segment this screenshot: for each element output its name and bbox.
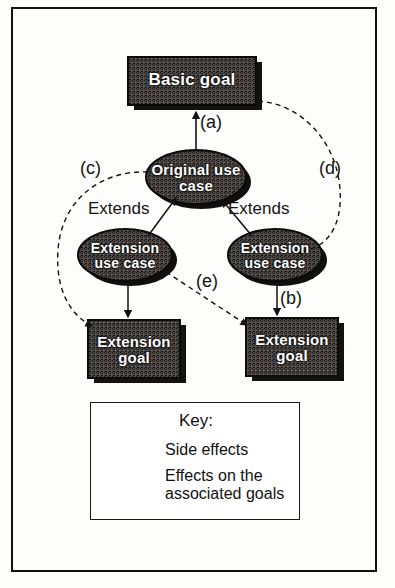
node-extension-goal-right[interactable] (246, 318, 344, 381)
key-side-effects-label: Side effects (165, 441, 248, 459)
edge-d-label: (d) (319, 158, 341, 179)
edge-extends-right-label: Extends (228, 199, 289, 219)
edge-c-label: (c) (80, 158, 101, 179)
node-extension-use-case-left[interactable] (78, 229, 177, 286)
node-basic-goal[interactable] (128, 57, 262, 110)
diagram-page: Basic goal Original use case Extension u… (0, 0, 395, 588)
node-extension-goal-left[interactable] (88, 320, 186, 383)
node-extension-use-case-right[interactable] (228, 229, 327, 286)
key-associated-goals-label: Effects on the associated goals (165, 467, 297, 503)
edge-a-label: (a) (200, 112, 222, 133)
key-legend-box: Key: Side effects Effects on the associa… (90, 402, 300, 520)
edge-extends-left-line (148, 198, 176, 236)
edge-extends-left-label: Extends (88, 199, 149, 219)
edge-e-label: (e) (196, 271, 218, 292)
edge-b-label: (b) (280, 288, 302, 309)
key-title: Key: (91, 411, 301, 431)
